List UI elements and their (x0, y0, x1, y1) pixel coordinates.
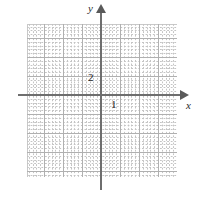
minor-gridline-horizontal (27, 68, 177, 69)
major-gridline-vertical (63, 24, 64, 177)
minor-gridline-horizontal (27, 137, 177, 138)
minor-gridline-horizontal (27, 84, 177, 85)
minor-gridline-vertical (93, 24, 94, 177)
minor-gridline-vertical (36, 24, 37, 177)
minor-gridline-horizontal (27, 65, 177, 66)
minor-gridline-horizontal (27, 30, 177, 31)
minor-gridline-vertical (128, 24, 129, 177)
minor-gridline-horizontal (27, 144, 177, 145)
y-tick-label-2: 2 (88, 72, 94, 83)
minor-gridline-horizontal (27, 72, 177, 73)
minor-gridline-vertical (173, 24, 174, 177)
x-tick-label-1: 1 (111, 99, 117, 110)
major-gridline-vertical (120, 24, 121, 177)
major-gridline-vertical (139, 24, 140, 177)
minor-gridline-vertical (131, 24, 132, 177)
minor-gridline-vertical (162, 24, 163, 177)
minor-gridline-horizontal (27, 125, 177, 126)
minor-gridline-horizontal (27, 163, 177, 164)
major-gridline-horizontal (27, 76, 177, 77)
major-gridline-vertical (82, 24, 83, 177)
minor-gridline-horizontal (27, 87, 177, 88)
minor-gridline-horizontal (27, 122, 177, 123)
minor-gridline-horizontal (27, 61, 177, 62)
minor-gridline-vertical (109, 24, 110, 177)
minor-gridline-vertical (71, 24, 72, 177)
minor-gridline-horizontal (27, 148, 177, 149)
minor-gridline-horizontal (27, 160, 177, 161)
grid-background (27, 24, 177, 177)
minor-gridline-vertical (33, 24, 34, 177)
major-gridline-horizontal (27, 171, 177, 172)
minor-gridline-horizontal (27, 91, 177, 92)
minor-gridline-vertical (124, 24, 125, 177)
minor-gridline-vertical (29, 24, 30, 177)
major-gridline-horizontal (27, 152, 177, 153)
minor-gridline-vertical (166, 24, 167, 177)
minor-gridline-vertical (55, 24, 56, 177)
minor-gridline-vertical (135, 24, 136, 177)
minor-gridline-horizontal (27, 110, 177, 111)
minor-gridline-vertical (59, 24, 60, 177)
y-axis-label: y (88, 3, 93, 14)
minor-gridline-horizontal (27, 53, 177, 54)
minor-gridline-horizontal (27, 156, 177, 157)
minor-gridline-horizontal (27, 141, 177, 142)
y-axis-arrow-icon (96, 4, 106, 13)
minor-gridline-horizontal (27, 129, 177, 130)
major-gridline-horizontal (27, 114, 177, 115)
major-gridline-horizontal (27, 38, 177, 39)
minor-gridline-vertical (86, 24, 87, 177)
minor-gridline-vertical (52, 24, 53, 177)
minor-gridline-vertical (154, 24, 155, 177)
minor-gridline-horizontal (27, 167, 177, 168)
major-gridline-horizontal (27, 57, 177, 58)
minor-gridline-horizontal (27, 42, 177, 43)
minor-gridline-vertical (67, 24, 68, 177)
minor-gridline-vertical (147, 24, 148, 177)
minor-gridline-horizontal (27, 106, 177, 107)
minor-gridline-horizontal (27, 46, 177, 47)
minor-gridline-vertical (48, 24, 49, 177)
minor-gridline-horizontal (27, 175, 177, 176)
major-gridline-vertical (158, 24, 159, 177)
minor-gridline-vertical (105, 24, 106, 177)
minor-gridline-horizontal (27, 49, 177, 50)
minor-gridline-horizontal (27, 80, 177, 81)
minor-gridline-horizontal (27, 118, 177, 119)
minor-gridline-vertical (97, 24, 98, 177)
minor-gridline-vertical (74, 24, 75, 177)
minor-gridline-vertical (150, 24, 151, 177)
minor-gridline-horizontal (27, 103, 177, 104)
y-axis-line (100, 12, 102, 190)
x-axis-label: x (186, 100, 191, 111)
major-gridline-horizontal (27, 133, 177, 134)
minor-gridline-horizontal (27, 99, 177, 100)
graph-canvas: y x 2 1 (0, 0, 203, 201)
minor-gridline-horizontal (27, 27, 177, 28)
minor-gridline-vertical (169, 24, 170, 177)
minor-gridline-vertical (90, 24, 91, 177)
minor-gridline-vertical (40, 24, 41, 177)
major-gridline-vertical (44, 24, 45, 177)
minor-gridline-horizontal (27, 34, 177, 35)
minor-gridline-vertical (143, 24, 144, 177)
minor-gridline-vertical (78, 24, 79, 177)
